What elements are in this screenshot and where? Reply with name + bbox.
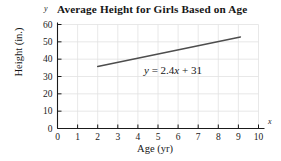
x-tick-label: 1: [71, 132, 85, 142]
x-tick-label: 7: [191, 132, 205, 142]
equation-annotation: y = 2.4x + 31: [144, 64, 202, 77]
trend-line: [98, 37, 241, 67]
equation-operator: = 2.4: [149, 64, 174, 76]
x-tick-label: 3: [111, 132, 125, 142]
y-tick-label: 0: [33, 124, 53, 134]
x-tick-label: 10: [252, 132, 266, 142]
data-series: [98, 37, 241, 67]
y-tick-label: 50: [33, 37, 53, 47]
x-tick-label: 9: [231, 132, 245, 142]
x-tick-label: 2: [91, 132, 105, 142]
y-tick-label: 60: [33, 20, 53, 30]
chart-figure: Average Height for Girls Based on Age y …: [0, 0, 281, 161]
y-tick-label: 30: [33, 72, 53, 82]
y-tick-label: 10: [33, 106, 53, 116]
y-tick-label: 20: [33, 89, 53, 99]
y-tick-label: 40: [33, 54, 53, 64]
x-tick-label: 5: [151, 132, 165, 142]
x-tick-label: 4: [131, 132, 145, 142]
x-tick-label: 0: [51, 132, 65, 142]
x-tick-label: 6: [171, 132, 185, 142]
equation-constant: + 31: [179, 64, 202, 76]
x-tick-label: 8: [211, 132, 225, 142]
